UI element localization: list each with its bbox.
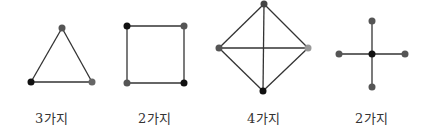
square-vertex [181,23,188,30]
cross-vertex [369,84,376,91]
cross-vertex [369,18,376,25]
triangle-label: 3가지 [22,108,82,127]
triangle-vertex [59,25,66,32]
diamond-vertex [261,1,268,8]
diamond-vertex [305,45,312,52]
triangle-edge [31,28,62,82]
square-figure [124,23,188,87]
cross-vertex [336,51,343,58]
diamond-vertex [260,88,267,95]
triangle-vertex [28,79,35,86]
triangle-edge [62,28,92,82]
square-vertex [124,23,131,30]
square-vertex [124,80,131,87]
triangle-figure [28,25,96,86]
triangle-vertex [89,79,96,86]
diamond-edge [263,48,308,91]
diamond-edge [264,4,308,48]
diamond-label: 4가지 [234,108,294,127]
diamond-vertex [216,45,223,52]
cross-vertex [402,51,409,58]
diamond-figure [216,1,312,95]
diamond-edge [219,48,263,91]
square-vertex [181,80,188,87]
cross-label: 2가지 [342,108,402,127]
square-label: 2가지 [125,108,185,127]
cross-figure [336,18,409,91]
cross-vertex [369,51,376,58]
diamond-edge [219,4,264,48]
